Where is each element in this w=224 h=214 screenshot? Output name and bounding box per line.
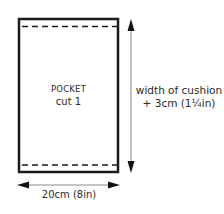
- height-dimension-line1: width of cushion: [134, 84, 224, 97]
- arrow-right-icon: [108, 182, 120, 189]
- height-dimension-label: width of cushion + 3cm (1¼in): [134, 84, 224, 110]
- height-dimension-line2: + 3cm (1¼in): [134, 97, 224, 110]
- arrow-up-icon: [128, 19, 135, 31]
- arrow-left-icon: [17, 182, 29, 189]
- pocket-cut-instruction: cut 1: [18, 96, 119, 107]
- pocket-title: POCKET: [18, 84, 119, 94]
- arrow-down-icon: [128, 161, 135, 173]
- width-dimension-label: 20cm (8in): [18, 189, 120, 200]
